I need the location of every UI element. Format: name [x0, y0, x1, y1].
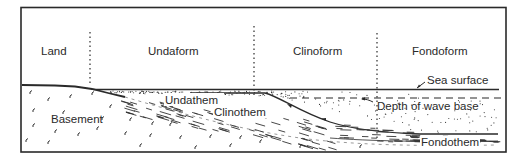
sand-dot: [281, 96, 282, 97]
sand-dot: [262, 94, 263, 95]
sand-dot: [285, 91, 286, 92]
sand-dot: [272, 94, 273, 95]
mud-dash: [170, 107, 181, 110]
sand-dot: [469, 122, 470, 123]
sand-dot: [476, 131, 477, 132]
mud-dash: [149, 103, 155, 105]
sand-dot: [267, 92, 268, 93]
sand-dot: [459, 102, 460, 103]
mud-dash: [218, 123, 224, 125]
sand-dot: [140, 92, 141, 93]
sand-dot: [264, 95, 265, 96]
sand-dot: [371, 119, 372, 120]
sand-dot: [494, 109, 495, 110]
sand-dot: [440, 122, 441, 123]
mud-dash: [126, 112, 136, 115]
sand-dot: [220, 90, 221, 91]
sand-dot: [259, 95, 260, 96]
sand-dot: [315, 98, 316, 99]
sand-dot: [332, 108, 333, 109]
sand-dot: [446, 109, 447, 110]
sand-dot: [384, 116, 385, 117]
mud-dash: [192, 126, 199, 128]
sand-dot: [359, 105, 360, 106]
sand-dot: [303, 97, 304, 98]
sand-dot: [119, 91, 120, 92]
mud-dash: [282, 141, 291, 144]
sand-dot: [341, 91, 342, 92]
sand-dot: [491, 117, 492, 118]
sand-dot: [422, 108, 423, 109]
sand-dot: [289, 98, 290, 99]
mud-dash: [204, 110, 211, 112]
sand-dot: [326, 101, 327, 102]
basement-mark: [360, 145, 362, 149]
sand-dot: [394, 121, 395, 122]
sand-dot: [182, 91, 183, 92]
sand-dot: [460, 118, 461, 119]
sand-dot: [479, 101, 480, 102]
sand-dot: [157, 91, 158, 92]
sand-dot: [232, 94, 233, 95]
sand-dot: [405, 113, 406, 114]
sand-dot: [469, 130, 470, 131]
sand-dot: [143, 93, 144, 94]
mud-dash: [166, 109, 174, 111]
sand-dot: [234, 91, 235, 92]
sand-dot: [418, 120, 419, 121]
sand-dot: [230, 92, 231, 93]
basement-mark: [92, 92, 94, 96]
unit-label-clinothem: Clinothem: [214, 106, 266, 118]
sand-dot: [414, 119, 415, 120]
sand-dot: [271, 92, 272, 93]
basement-mark: [30, 91, 32, 95]
sand-dot: [229, 92, 230, 93]
basement-mark: [33, 124, 35, 128]
sand-dot: [145, 92, 146, 93]
sand-dot: [172, 91, 173, 92]
sand-dot: [146, 91, 147, 92]
mud-dash: [171, 120, 181, 123]
sand-dot: [299, 93, 300, 94]
sand-dot: [191, 92, 192, 93]
sand-dot: [487, 128, 488, 129]
sand-dot: [259, 91, 260, 92]
sand-dot: [244, 92, 245, 93]
sand-dot: [205, 91, 206, 92]
sand-dot: [468, 116, 469, 117]
sand-dot: [135, 91, 136, 92]
sand-dot: [433, 109, 434, 110]
sand-dot: [181, 91, 182, 92]
sand-dot: [199, 92, 200, 93]
sand-dot: [236, 93, 237, 94]
sand-dot: [283, 96, 284, 97]
mud-dash: [213, 129, 219, 131]
sand-dot: [110, 91, 111, 92]
sand-dot: [123, 91, 124, 92]
sand-dot: [455, 130, 456, 131]
sand-dot: [307, 91, 308, 92]
sand-dot: [457, 119, 458, 120]
sand-dot: [207, 91, 208, 92]
mud-dash: [146, 108, 152, 110]
mud-dash: [220, 129, 230, 132]
sand-dot: [374, 104, 375, 105]
sand-dot: [427, 114, 428, 115]
mud-dash: [192, 112, 197, 114]
basement-mark: [55, 130, 57, 134]
sand-dot: [448, 118, 449, 119]
sand-dot: [244, 93, 245, 94]
sand-dot: [338, 104, 339, 105]
sand-dot: [151, 92, 152, 93]
sand-dot: [366, 95, 367, 96]
zone-label-clinoform: Clinoform: [293, 45, 342, 57]
sand-dot: [324, 102, 325, 103]
sea-surface-label: Sea surface: [427, 74, 488, 86]
sand-dot: [418, 98, 419, 99]
sand-dot: [339, 100, 340, 101]
sand-dot: [258, 91, 259, 92]
mud-dash: [186, 115, 194, 117]
sand-dot: [285, 94, 286, 95]
mud-dash: [193, 121, 205, 124]
sand-dot: [472, 121, 473, 122]
